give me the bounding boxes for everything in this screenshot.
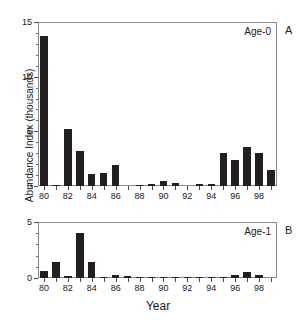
- y-minor-tick: [36, 233, 38, 234]
- panel-b-letter: B: [285, 224, 292, 236]
- y-minor-tick: [36, 120, 38, 121]
- y-minor-tick: [36, 153, 38, 154]
- y-minor-tick: [36, 109, 38, 110]
- x-tick-label: 98: [254, 191, 264, 201]
- y-tick-label: 0: [27, 273, 32, 283]
- x-tick: [163, 278, 164, 282]
- bar: [52, 262, 59, 278]
- x-tick: [235, 278, 236, 282]
- x-tick: [259, 278, 260, 282]
- x-tick: [223, 278, 224, 282]
- y-minor-tick: [36, 44, 38, 45]
- bar: [112, 165, 119, 186]
- x-axis-title: Year: [38, 299, 278, 313]
- x-tick-label: 84: [87, 283, 97, 293]
- bar: [40, 271, 47, 278]
- y-minor-tick: [36, 267, 38, 268]
- x-tick-label: 86: [111, 191, 121, 201]
- x-tick-label: 94: [206, 191, 216, 201]
- bar: [76, 151, 83, 186]
- x-tick: [56, 278, 57, 282]
- y-tick: [34, 131, 38, 132]
- x-tick-label: 96: [230, 191, 240, 201]
- panel-age0: 80828486889092949698051015 Age-0: [38, 22, 277, 186]
- x-tick: [80, 186, 81, 190]
- x-tick: [104, 278, 105, 282]
- x-tick-label: 82: [63, 283, 73, 293]
- y-tick-label: 0: [27, 181, 32, 191]
- x-tick: [44, 278, 45, 282]
- x-tick: [92, 186, 93, 190]
- bar: [100, 173, 107, 186]
- x-tick: [247, 278, 248, 282]
- x-tick: [211, 278, 212, 282]
- y-tick-label: 10: [22, 72, 32, 82]
- panel-a-letter: A: [285, 24, 292, 36]
- y-minor-tick: [36, 99, 38, 100]
- figure-root: Abundance Index (thousands) 808284868890…: [0, 0, 307, 322]
- y-minor-tick: [36, 142, 38, 143]
- x-tick-label: 92: [182, 191, 192, 201]
- y-tick: [34, 222, 38, 223]
- x-tick-label: 86: [111, 283, 121, 293]
- y-tick-label: 5: [27, 126, 32, 136]
- y-tick-label: 15: [22, 17, 32, 27]
- y-tick-label: 5: [27, 217, 32, 227]
- x-tick: [175, 278, 176, 282]
- x-tick-label: 90: [158, 283, 168, 293]
- y-tick: [34, 278, 38, 279]
- x-tick: [211, 186, 212, 190]
- bar: [76, 233, 83, 278]
- bar: [64, 129, 71, 186]
- panel-age1: 8082848688909294969805 Age-1: [38, 222, 277, 278]
- x-tick-label: 88: [135, 283, 145, 293]
- bar: [243, 147, 250, 186]
- x-tick: [140, 278, 141, 282]
- x-tick: [187, 186, 188, 190]
- y-tick: [34, 77, 38, 78]
- x-tick: [116, 186, 117, 190]
- x-tick: [116, 278, 117, 282]
- y-minor-tick: [36, 175, 38, 176]
- x-tick: [223, 186, 224, 190]
- x-tick: [128, 186, 129, 190]
- x-tick: [187, 278, 188, 282]
- x-tick: [44, 186, 45, 190]
- x-tick: [128, 278, 129, 282]
- x-tick: [152, 186, 153, 190]
- panel-a-annotation: Age-0: [244, 26, 271, 37]
- x-tick: [68, 278, 69, 282]
- y-tick: [34, 186, 38, 187]
- x-tick-label: 88: [135, 191, 145, 201]
- x-tick: [80, 278, 81, 282]
- x-tick: [271, 186, 272, 190]
- bar: [255, 153, 262, 186]
- y-minor-tick: [36, 33, 38, 34]
- x-tick-label: 80: [39, 283, 49, 293]
- y-minor-tick: [36, 164, 38, 165]
- x-tick: [163, 186, 164, 190]
- x-tick-label: 90: [158, 191, 168, 201]
- y-minor-tick: [36, 55, 38, 56]
- x-tick-label: 82: [63, 191, 73, 201]
- x-tick-label: 84: [87, 191, 97, 201]
- panel-a-bars: 80828486889092949698051015: [38, 22, 277, 186]
- bar: [40, 36, 47, 186]
- x-tick: [152, 278, 153, 282]
- y-minor-tick: [36, 244, 38, 245]
- x-tick-label: 94: [206, 283, 216, 293]
- panel-b-bars: 8082848688909294969805: [38, 222, 277, 278]
- x-tick: [56, 186, 57, 190]
- x-tick: [235, 186, 236, 190]
- bar: [231, 160, 238, 186]
- x-tick: [247, 186, 248, 190]
- bar: [220, 153, 227, 186]
- y-tick: [34, 22, 38, 23]
- panel-b-annotation: Age-1: [244, 226, 271, 237]
- x-tick-label: 98: [254, 283, 264, 293]
- y-minor-tick: [36, 88, 38, 89]
- x-tick: [199, 186, 200, 190]
- x-tick: [68, 186, 69, 190]
- bar: [88, 262, 95, 278]
- x-tick: [199, 278, 200, 282]
